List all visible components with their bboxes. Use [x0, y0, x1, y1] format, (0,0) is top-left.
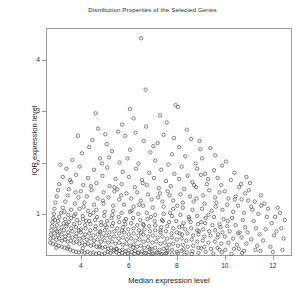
scatter-point — [127, 228, 130, 231]
scatter-point — [245, 242, 248, 245]
scatter-point — [258, 233, 261, 236]
scatter-point — [208, 230, 211, 233]
scatter-point — [126, 157, 129, 160]
y-axis-tick — [42, 163, 46, 164]
scatter-point — [134, 131, 137, 134]
scatter-point — [180, 237, 183, 240]
scatter-point — [58, 215, 61, 218]
scatter-point — [140, 231, 143, 234]
scatter-point — [203, 172, 206, 175]
scatter-point — [148, 225, 151, 228]
scatter-point — [196, 167, 199, 170]
scatter-point — [56, 189, 59, 192]
scatter-point — [204, 216, 207, 219]
scatter-point — [154, 159, 157, 162]
scatter-point — [64, 200, 67, 203]
scatter-point — [247, 199, 250, 202]
scatter-point — [168, 211, 171, 214]
scatter-point — [66, 194, 69, 197]
scatter-point — [104, 234, 107, 237]
scatter-point — [223, 190, 226, 193]
scatter-point — [121, 236, 124, 239]
scatter-point — [89, 222, 92, 225]
scatter-point — [264, 228, 267, 231]
scatter-point — [62, 221, 65, 224]
scatter-point — [227, 197, 230, 200]
scatter-point — [211, 223, 214, 226]
scatter-point — [104, 133, 107, 136]
scatter-point — [213, 240, 216, 243]
scatter-point — [191, 234, 194, 237]
y-axis-title: IQR expression level — [30, 61, 39, 221]
scatter-point — [117, 237, 120, 240]
scatter-point — [91, 138, 94, 141]
scatter-point — [172, 207, 175, 210]
scatter-point — [77, 196, 80, 199]
scatter-point — [116, 227, 119, 230]
scatter-point — [142, 204, 145, 207]
scatter-point — [168, 194, 171, 197]
scatter-point — [136, 223, 139, 226]
scatter-point — [108, 236, 111, 239]
scatter-point — [237, 247, 240, 250]
scatter-point — [96, 127, 99, 130]
scatter-point — [140, 37, 143, 40]
scatter-point — [108, 184, 111, 187]
scatter-point — [98, 157, 101, 160]
scatter-point — [200, 220, 203, 223]
scatter-point — [133, 185, 136, 188]
scatter-point — [246, 231, 249, 234]
scatter-point — [65, 222, 68, 225]
scatter-point — [136, 245, 139, 248]
scatter-point — [90, 189, 93, 192]
scatter-point — [196, 214, 199, 217]
scatter-point — [139, 218, 142, 221]
scatter-point — [199, 147, 202, 150]
scatter-point — [74, 226, 77, 229]
scatter-point — [81, 247, 84, 250]
scatter-point — [125, 242, 128, 245]
scatter-point — [207, 213, 210, 216]
scatter-point — [203, 202, 206, 205]
scatter-point — [228, 230, 231, 233]
x-axis-tick-label: 10 — [213, 262, 237, 269]
scatter-point — [172, 199, 175, 202]
scatter-point — [185, 239, 188, 242]
scatter-point — [111, 213, 114, 216]
scatter-point — [154, 223, 157, 226]
scatter-point — [166, 190, 169, 193]
scatter-point — [188, 217, 191, 220]
scatter-point — [202, 228, 205, 231]
scatter-point — [70, 208, 73, 211]
scatter-point — [226, 225, 229, 228]
scatter-point — [170, 232, 173, 235]
scatter-point — [95, 208, 98, 211]
plot-title: Distribution Properties of the Selected … — [0, 5, 305, 15]
scatter-point — [163, 241, 166, 244]
scatter-point — [232, 237, 235, 240]
scatter-point — [96, 197, 99, 200]
scatter-point — [118, 198, 121, 201]
scatter-point — [207, 241, 210, 244]
scatter-point — [175, 219, 178, 222]
scatter-point — [121, 243, 124, 246]
scatter-point — [166, 225, 169, 228]
scatter-point — [125, 238, 128, 241]
scatter-point — [60, 226, 63, 229]
scatter-point — [183, 253, 186, 256]
scatter-point — [209, 146, 212, 149]
scatter-point — [82, 183, 85, 186]
scatter-point — [153, 219, 156, 222]
scatter-point — [190, 238, 193, 241]
scatter-point — [92, 234, 95, 237]
scatter-point — [164, 230, 167, 233]
scatter-point — [178, 177, 181, 180]
scatter-point — [229, 178, 232, 181]
scatter-point — [234, 223, 237, 226]
scatter-point — [144, 88, 147, 91]
scatter-point — [259, 249, 262, 252]
scatter-point — [89, 237, 92, 240]
scatter-point — [122, 203, 125, 206]
scatter-point — [139, 199, 142, 202]
scatter-point — [179, 193, 182, 196]
